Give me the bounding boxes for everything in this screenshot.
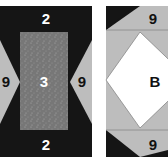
right-center-label: B <box>150 73 161 90</box>
left-bottom-label: 2 <box>42 136 50 153</box>
left-top-label: 2 <box>42 10 50 27</box>
left-center-label: 3 <box>40 73 48 90</box>
left-triangle-label: 9 <box>2 73 10 90</box>
quilt-block-diagram: 2 2 3 9 9 9 9 B <box>0 0 168 157</box>
right-bottom-label: 9 <box>149 136 157 153</box>
right-top-label: 9 <box>149 10 157 27</box>
right-triangle-label: 9 <box>78 73 86 90</box>
